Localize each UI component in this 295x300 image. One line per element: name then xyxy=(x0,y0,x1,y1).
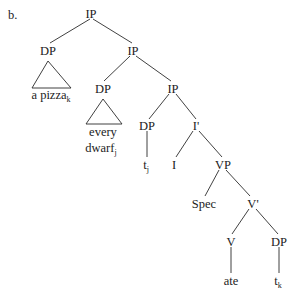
node-v-head: V xyxy=(226,235,235,249)
leaf-trace-j: tj xyxy=(143,158,149,174)
leaf-a-pizza-text: a pizza xyxy=(31,88,66,102)
node-root-ip: IP xyxy=(85,7,96,21)
leaf-a-pizza: a pizzak xyxy=(31,88,70,104)
node-i-bar: I' xyxy=(193,119,199,133)
node-i-head: I xyxy=(172,158,176,172)
node-dp-trace-j: DP xyxy=(139,119,155,133)
edge-root-ip-to-ip2 xyxy=(93,19,132,43)
node-ip-2: IP xyxy=(127,44,138,58)
edge-i-bar-to-i xyxy=(176,131,193,157)
leaf-dwarf: dwarfj xyxy=(85,141,116,157)
leaf-dwarf-text: dwarf xyxy=(85,141,115,155)
edge-vp-to-v-bar xyxy=(226,170,250,196)
edge-ip2-to-dp-dwarf xyxy=(104,56,130,81)
leaf-dwarf-subscript: j xyxy=(113,148,116,157)
edge-i-bar-to-vp xyxy=(199,131,222,157)
leaf-trace-j-subscript: j xyxy=(146,165,149,174)
edge-ip3-to-dp-trace-j xyxy=(149,94,169,119)
triangle-every-dwarf xyxy=(86,99,122,124)
syntax-tree-svg: IP DP IP DP IP DP I' I VP Spec V' V DP a… xyxy=(0,0,295,300)
leaf-ate: ate xyxy=(224,274,239,288)
node-dp-dwarf: DP xyxy=(95,82,111,96)
edge-vp-to-spec xyxy=(205,170,219,196)
edge-v-bar-to-v xyxy=(232,209,249,234)
node-v-bar: V' xyxy=(247,197,258,211)
node-spec: Spec xyxy=(192,197,217,211)
triangle-a-pizza xyxy=(32,61,71,88)
figure-item-label: b. xyxy=(8,8,17,22)
node-ip-3: IP xyxy=(167,82,178,96)
node-dp-trace-k: DP xyxy=(271,235,287,249)
edge-ip2-to-ip3 xyxy=(136,56,171,81)
leaf-trace-k: tk xyxy=(274,274,281,290)
edge-root-ip-to-dp-pizza xyxy=(50,19,90,43)
leaf-trace-k-subscript: k xyxy=(278,281,282,290)
node-vp: VP xyxy=(215,158,231,172)
leaf-every: every xyxy=(89,125,118,139)
leaf-a-pizza-subscript: k xyxy=(67,95,71,104)
syntax-tree-figure: IP DP IP DP IP DP I' I VP Spec V' V DP a… xyxy=(0,0,295,300)
node-dp-pizza: DP xyxy=(40,44,56,58)
edge-ip3-to-i-bar xyxy=(176,94,196,119)
edge-v-bar-to-dp-trace-k xyxy=(256,209,278,234)
